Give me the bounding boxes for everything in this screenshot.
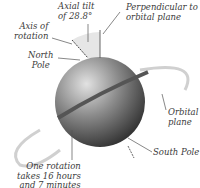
south-pole-label: South Pole (153, 148, 199, 158)
rotation-period-label: One rotation takes 16 hours and 7 minute… (17, 162, 81, 188)
leader-axis (52, 38, 72, 44)
axis-line2: rotation (14, 32, 48, 42)
north-pole-label: North Pole (28, 51, 54, 70)
perpendicular-line2: orbital plane (126, 13, 198, 23)
leader-north (58, 58, 80, 60)
perpendicular-label: Perpendicular to orbital plane (126, 3, 198, 22)
leader-orbital (162, 94, 166, 110)
south-axis (128, 146, 134, 158)
leader-south (128, 138, 152, 152)
orbital-line2: plane (168, 118, 198, 128)
axial-tilt-line2: of 28.8° (58, 12, 94, 22)
rotation-line3: and 7 minutes (17, 181, 81, 188)
axis-of-rotation-label: Axis of rotation (14, 22, 48, 41)
leader-perp (103, 12, 120, 34)
planet-sphere (55, 57, 145, 147)
orbital-plane-label: Orbital plane (168, 108, 198, 127)
axial-tilt-label: Axial tilt of 28.8° (58, 2, 94, 21)
north-line2: Pole (28, 61, 54, 71)
